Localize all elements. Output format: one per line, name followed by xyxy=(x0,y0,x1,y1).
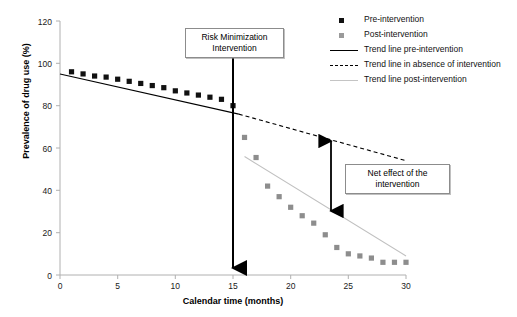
legend-label: Trend line in absence of intervention xyxy=(364,60,501,69)
data-point xyxy=(334,245,339,250)
data-point xyxy=(357,253,362,258)
data-point xyxy=(138,81,143,86)
legend-item-post-intervention: Post-intervention xyxy=(328,27,514,42)
data-point xyxy=(265,184,270,189)
data-point xyxy=(346,251,351,256)
data-point xyxy=(311,221,316,226)
legend-item-trend-post: Trend line post-intervention xyxy=(328,72,514,87)
x-axis-title: Calendar time (months) xyxy=(60,296,406,306)
y-tick-label: 40 xyxy=(43,186,53,196)
data-point xyxy=(115,77,120,82)
legend-label: Pre-intervention xyxy=(364,15,424,24)
data-point xyxy=(380,260,385,265)
legend-item-trend-pre: Trend line pre-intervention xyxy=(328,42,514,57)
callout-risk-minimization-intervention: Risk Minimization Intervention xyxy=(185,28,284,58)
data-point xyxy=(161,85,166,90)
callout-net-effect-line2: intervention xyxy=(351,179,444,190)
data-point xyxy=(92,73,97,78)
legend-label: Trend line pre-intervention xyxy=(364,45,463,54)
x-tick-label: 5 xyxy=(115,281,120,291)
data-point xyxy=(219,97,224,102)
series-2 xyxy=(60,74,239,114)
data-point xyxy=(104,74,109,79)
legend-key-dashed-line-icon xyxy=(328,58,360,72)
callout-net-effect-line1: Net effect of the xyxy=(351,168,444,179)
legend-key-light-line-icon xyxy=(328,73,360,87)
series-3 xyxy=(239,114,406,161)
data-point xyxy=(323,232,328,237)
data-point xyxy=(392,260,397,265)
data-point xyxy=(300,213,305,218)
legend-key-square-black-icon xyxy=(328,13,360,27)
data-point xyxy=(150,83,155,88)
series-0 xyxy=(69,69,236,108)
trend-line xyxy=(239,114,406,161)
x-tick-label: 30 xyxy=(401,281,411,291)
legend-key-square-gray-icon xyxy=(328,28,360,42)
data-point xyxy=(69,69,74,74)
data-point xyxy=(196,92,201,97)
callout-intervention-line2: Intervention xyxy=(191,43,278,54)
x-axis-title-label: Calendar time (months) xyxy=(183,296,284,306)
data-point xyxy=(207,95,212,100)
y-axis-title: Prevalence of drug use (%) xyxy=(21,31,31,171)
data-point xyxy=(242,135,247,140)
data-point xyxy=(127,79,132,84)
y-axis-title-label: Prevalence of drug use (%) xyxy=(21,43,31,159)
chart-container: 120 100 80 60 40 20 0 0 5 10 15 20 25 30 xyxy=(0,0,517,317)
legend-item-pre-intervention: Pre-intervention xyxy=(328,12,514,27)
data-point xyxy=(403,260,408,265)
y-tick-label: 0 xyxy=(47,271,52,281)
x-axis-ticks xyxy=(60,275,406,279)
legend-label: Trend line post-intervention xyxy=(364,75,467,84)
y-tick-label: 80 xyxy=(43,101,53,111)
data-point xyxy=(277,194,282,199)
callout-net-effect: Net effect of the intervention xyxy=(345,164,450,194)
y-tick-label: 120 xyxy=(38,17,52,27)
chart-legend: Pre-intervention Post-intervention Trend… xyxy=(328,12,514,87)
x-tick-label: 0 xyxy=(58,281,63,291)
data-point xyxy=(288,205,293,210)
x-tick-label: 10 xyxy=(171,281,181,291)
trend-line xyxy=(60,74,239,114)
legend-item-trend-absence: Trend line in absence of intervention xyxy=(328,57,514,72)
data-point xyxy=(173,88,178,93)
data-point xyxy=(253,155,258,160)
data-point xyxy=(80,71,85,76)
x-tick-label: 25 xyxy=(344,281,354,291)
y-tick-label: 60 xyxy=(43,144,53,154)
y-tick-label: 100 xyxy=(38,59,52,69)
data-point xyxy=(184,90,189,95)
legend-label: Post-intervention xyxy=(364,30,428,39)
legend-key-solid-line-icon xyxy=(328,43,360,57)
x-tick-label: 15 xyxy=(228,281,238,291)
y-axis-ticks xyxy=(56,21,60,275)
y-tick-label: 20 xyxy=(43,228,53,238)
x-tick-label: 20 xyxy=(286,281,296,291)
callout-intervention-line1: Risk Minimization xyxy=(191,32,278,43)
data-point xyxy=(369,255,374,260)
